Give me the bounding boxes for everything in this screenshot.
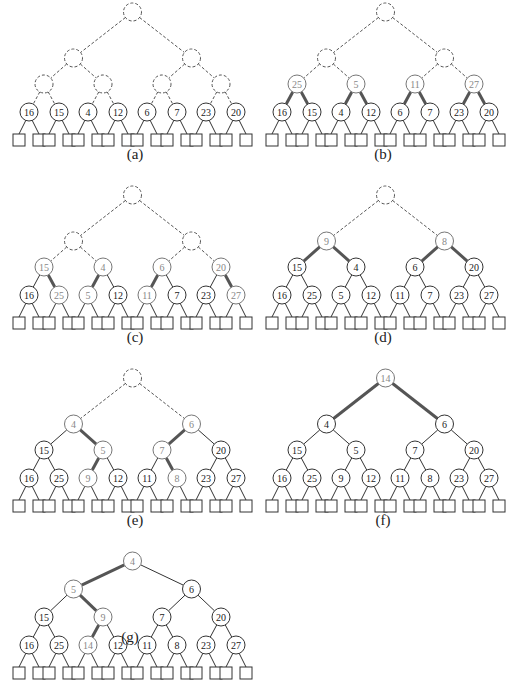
node-key: 12 [113,473,123,484]
tree-edge [315,120,322,134]
tree-edge [272,486,279,500]
highlighted-edge [478,92,485,104]
external-node-square [43,317,55,329]
highlighted-edge [304,247,320,261]
heap-node: 14 [79,636,97,654]
heap-node: 15 [288,441,306,459]
tree-edge [345,275,352,287]
empty-node [183,49,201,67]
node-key: 27 [231,290,241,301]
highlighted-edge [151,275,158,287]
empty-node [124,369,142,387]
node-key: 12 [366,107,376,118]
heap-node: 25 [303,286,321,304]
heap-node: 20 [465,258,483,276]
heap-node: 6 [436,415,454,433]
external-node-square [43,667,55,679]
tree-edge [433,120,440,134]
tree-edge [167,653,174,667]
external-node-square [493,317,505,329]
heap-node: 11 [391,469,409,487]
tree-edge [91,486,98,500]
tree-edge [478,458,485,470]
tree-edge [121,120,128,134]
node-key: 20 [484,107,494,118]
tree-edge [390,303,397,317]
node-key: 23 [454,107,464,118]
node-key: 7 [175,290,180,301]
external-node-square [220,134,232,146]
heap-node: 25 [50,636,68,654]
node-key: 9 [101,612,106,623]
external-node-square [161,317,173,329]
panel-label: (f) [363,512,403,529]
highlighted-edge [463,92,470,104]
tree-edge [196,120,203,134]
tree-edge [169,64,185,78]
external-node-square [414,317,426,329]
heap-node: 25 [50,469,68,487]
tree-edge [331,486,338,500]
tree-edge [479,303,486,317]
tree-edge [451,430,467,444]
tree-edge [333,430,349,444]
highlighted-edge [169,430,185,444]
tree-edge [169,247,185,261]
tree-edge [33,458,40,470]
external-node-square [13,500,25,512]
heap-node: 23 [197,469,215,487]
tree-edge [49,303,56,317]
node-key: 15 [39,262,49,273]
tree-edge [48,625,55,637]
heap-node: 12 [362,286,380,304]
node-key: 20 [231,107,241,118]
heap-node: 4 [65,415,83,433]
tree-edge [121,486,128,500]
highlighted-edge [451,247,467,261]
node-key: 16 [24,640,34,651]
empty-node [212,75,230,93]
node-key: 11 [395,473,405,484]
tree-edge [492,120,499,134]
node-key: 15 [39,445,49,456]
tree-edge [433,303,440,317]
heap-node: 27 [227,286,245,304]
node-key: 4 [86,107,91,118]
external-node-square [493,134,505,146]
heap-node: 23 [450,469,468,487]
node-key: 4 [354,262,359,273]
external-node-square [190,667,202,679]
external-node-square [72,500,84,512]
heap-node: 6 [183,580,201,598]
tree-edge [374,120,381,134]
heap-node: 27 [465,75,483,93]
empty-node [94,75,112,93]
tree-edge [403,486,410,500]
node-key: 16 [24,107,34,118]
heap-node: 16 [273,103,291,121]
highlighted-edge [301,92,308,104]
node-key: 25 [307,290,317,301]
tree-edge [140,384,185,419]
tree-edge [91,653,98,667]
node-key: 8 [442,236,447,247]
external-node-square [240,317,252,329]
node-key: 23 [454,290,464,301]
empty-node [436,49,454,67]
tree-edge [239,486,246,500]
tree-edge [137,486,144,500]
tree-edge [78,303,85,317]
tree-edge [404,275,411,287]
tree-edge [137,653,144,667]
heap-node: 20 [227,103,245,121]
node-key: 5 [86,290,91,301]
tree-edge [51,430,67,444]
panel-g: 456159720162514121182327 (g) [0,549,255,684]
panel-label: (a) [115,146,155,163]
tree-edge [403,303,410,317]
tree-edge [420,486,427,500]
tree-edge [420,120,427,134]
heap-node: 9 [318,232,336,250]
tree-edge [62,486,69,500]
tree-edge [210,92,217,104]
